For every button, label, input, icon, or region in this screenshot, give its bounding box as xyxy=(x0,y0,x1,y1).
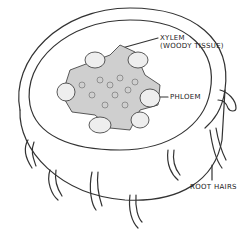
root-cross-section-diagram: XYLEM (WOODY TISSUE) PHLOEM ROOT HAIRS xyxy=(0,0,247,235)
xylem-leader-line xyxy=(122,38,158,48)
phloem-label: PHLOEM xyxy=(170,93,201,101)
xylem-label-line1: XYLEM xyxy=(160,34,224,42)
vascular-bundle xyxy=(57,45,160,133)
root-hairs-label: ROOT HAIRS xyxy=(190,183,237,191)
xylem-label: XYLEM (WOODY TISSUE) xyxy=(160,34,224,50)
xylem-label-line2: (WOODY TISSUE) xyxy=(160,42,224,50)
